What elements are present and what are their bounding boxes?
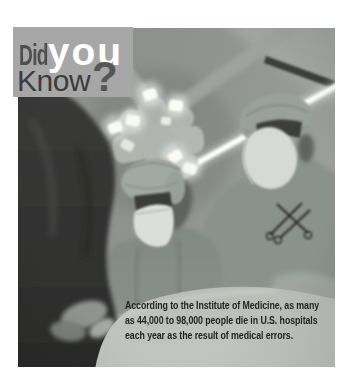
- badge-word-know: Know: [17, 66, 90, 96]
- caption: According to the Institute of Medicine, …: [125, 298, 343, 343]
- caption-line: as 44,000 to 98,000 people die in U.S. h…: [125, 313, 343, 328]
- caption-line: According to the Institute of Medicine, …: [125, 298, 343, 313]
- badge-line-2: Know?: [17, 56, 118, 98]
- caption-line: each year as the result of medical error…: [125, 328, 343, 343]
- badge-question-mark: ?: [92, 56, 118, 98]
- did-you-know-graphic: According to the Institute of Medicine, …: [0, 0, 352, 382]
- did-you-know-badge: Didyou Know?: [13, 27, 133, 97]
